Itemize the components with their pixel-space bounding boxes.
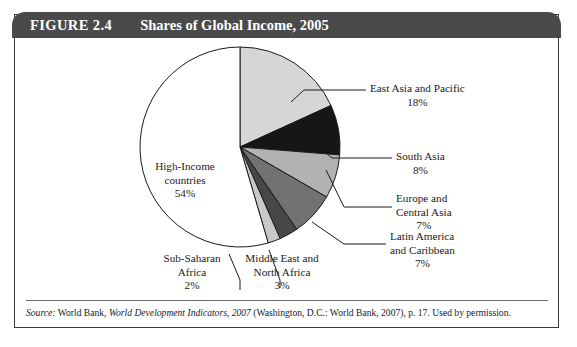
source-label: Source: — [26, 307, 55, 318]
slice-label-ssa: Sub-Saharan Africa 2% — [148, 252, 236, 293]
source-divider — [26, 300, 548, 301]
figure-title: Shares of Global Income, 2005 — [140, 17, 329, 34]
figure-number: FIGURE 2.4 — [30, 17, 112, 34]
slice-label-mena-line2: North Africa — [232, 266, 332, 280]
slice-label-europe-line2: Central Asia — [396, 206, 452, 220]
slice-label-europe-line1: Europe and — [396, 192, 452, 206]
source-rest: (Washington, D.C.: World Bank, 2007), p.… — [253, 307, 511, 318]
slice-label-east-asia: East Asia and Pacific 18% — [370, 82, 465, 109]
slice-label-latin-line3: 7% — [390, 257, 455, 271]
slice-label-high-income-line3: 54% — [126, 187, 244, 201]
slice-label-mena: Middle East and North Africa 3% — [232, 252, 332, 293]
slice-label-east-asia-line2: 18% — [370, 96, 465, 110]
slice-label-ssa-line2: Africa — [148, 266, 236, 280]
slice-label-high-income: High-Income countries 54% — [126, 160, 244, 201]
pie-slices-group — [140, 47, 340, 247]
slice-label-mena-line1: Middle East and — [232, 252, 332, 266]
source-footer: Source: World Bank, World Development In… — [26, 300, 548, 319]
leader-line-latin-america — [312, 222, 386, 244]
slice-label-ssa-line1: Sub-Saharan — [148, 252, 236, 266]
slice-label-mena-line3: 3% — [232, 279, 332, 293]
slice-label-europe: Europe and Central Asia 7% — [396, 192, 452, 233]
pie-chart-area: High-Income countries 54% East Asia and … — [14, 40, 559, 298]
slice-label-south-asia-line2: 8% — [396, 164, 445, 178]
slice-label-south-asia-line1: South Asia — [396, 150, 445, 164]
source-work-title: World Development Indicators, 2007 — [109, 307, 251, 318]
slice-label-high-income-line1: High-Income — [126, 160, 244, 174]
source-publisher: World Bank, — [58, 307, 107, 318]
slice-label-east-asia-line1: East Asia and Pacific — [370, 82, 465, 96]
figure-header-bar: FIGURE 2.4 Shares of Global Income, 2005 — [12, 12, 561, 38]
slice-label-latin-line2: and Caribbean — [390, 244, 455, 258]
slice-label-high-income-line2: countries — [126, 174, 244, 188]
slice-label-latin-america: Latin America and Caribbean 7% — [390, 230, 455, 271]
slice-label-ssa-line3: 2% — [148, 279, 236, 293]
slice-label-latin-line1: Latin America — [390, 230, 455, 244]
slice-label-south-asia: South Asia 8% — [396, 150, 445, 177]
source-text: Source: World Bank, World Development In… — [26, 307, 548, 319]
